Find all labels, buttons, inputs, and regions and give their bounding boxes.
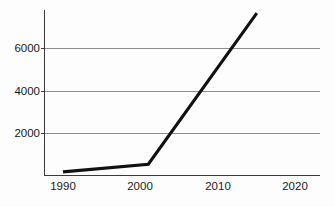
x-tick-label-2000: 2000 <box>117 180 163 193</box>
y-tick-marks <box>41 49 44 134</box>
y-tick-label-2000: 2000 <box>6 127 40 139</box>
x-tick-label-2020: 2020 <box>272 180 318 193</box>
line-chart: 6000 4000 2000 1990 2000 2010 2020 <box>0 0 335 207</box>
x-tick-label-2010: 2010 <box>195 180 241 193</box>
x-tick-label-1990: 1990 <box>40 180 86 193</box>
chart-canvas <box>0 0 335 207</box>
gridlines <box>44 49 320 134</box>
y-tick-label-6000: 6000 <box>6 42 40 54</box>
data-series-line <box>63 13 257 172</box>
y-tick-label-4000: 4000 <box>6 85 40 97</box>
